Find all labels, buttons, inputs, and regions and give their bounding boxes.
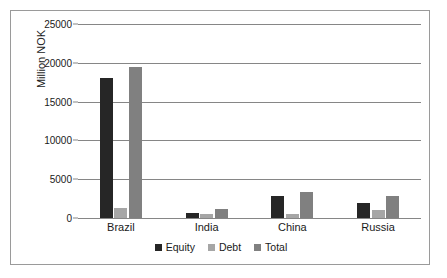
plot-area [78,24,421,219]
bar-group [186,24,228,218]
legend-label: Equity [166,242,195,253]
y-axis-tick-label: 25000 [44,20,72,30]
bar [357,203,370,218]
y-axis-tick-label: 20000 [44,59,72,69]
bar-group [357,24,399,218]
y-axis-tick-label: 10000 [44,136,72,146]
bar [100,78,113,218]
legend-item: Debt [208,242,241,253]
x-axis-tick-label: Russia [361,221,395,233]
chart-legend: EquityDebtTotal [11,242,431,253]
bar [300,192,313,218]
y-axis-tick-label: 0 [66,214,72,224]
bar [372,210,385,218]
legend-label: Total [265,242,287,253]
y-axis-tick-label: 15000 [44,98,72,108]
y-axis-tick-label: 5000 [50,175,72,185]
y-axis-tick-labels: 0500010000150002000025000 [32,24,72,219]
legend-item: Equity [155,242,195,253]
x-axis-tick-label: Brazil [107,221,135,233]
bar [271,196,284,219]
bar [386,196,399,219]
legend-label: Debt [219,242,241,253]
bar-group [100,24,142,218]
bar [215,209,228,218]
chart-figure: Million NOK 0500010000150002000025000 Br… [10,10,430,265]
bar [114,208,127,218]
x-axis-tick-labels: BrazilIndiaChinaRussia [78,221,421,237]
bar-group [271,24,313,218]
x-axis-line [78,218,421,219]
legend-swatch [208,244,215,251]
x-axis-tick-label: India [195,221,219,233]
legend-swatch [254,244,261,251]
legend-swatch [155,244,162,251]
bar [129,67,142,218]
x-axis-tick-label: China [278,221,307,233]
legend-item: Total [254,242,287,253]
